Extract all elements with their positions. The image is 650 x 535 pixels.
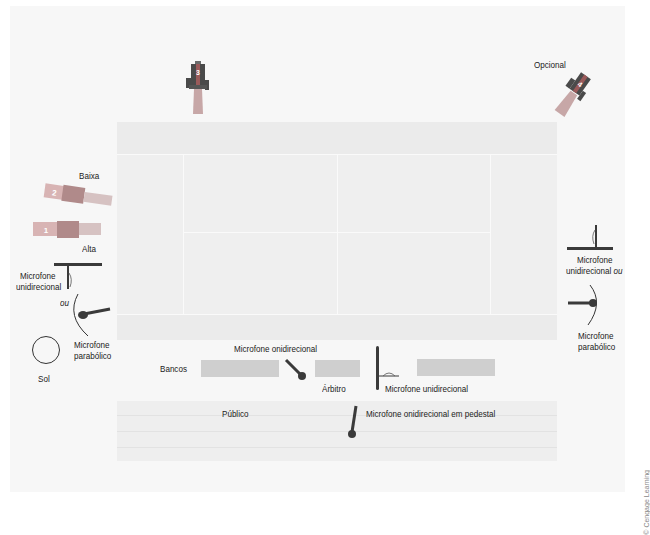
omni-mic-label: Microfone onidirecional <box>234 343 317 354</box>
stand-row <box>117 431 557 432</box>
bench-left <box>201 360 279 377</box>
court-line <box>490 154 491 314</box>
right-mic-uni-label-2: unidirecional ou <box>566 265 623 276</box>
court-top-zone <box>117 122 557 155</box>
right-parabolic-mic-icon <box>566 283 606 327</box>
right-mic-para-label-1: Microfone <box>578 330 613 341</box>
left-or-label: ou <box>60 297 69 308</box>
referee-table <box>315 360 360 377</box>
right-unidirectional-mic-icon <box>565 222 615 252</box>
court <box>117 122 557 340</box>
stand-mic-label: Microfone onidirecional em pedestal <box>366 408 495 419</box>
right-or-label: ou <box>614 265 623 276</box>
svg-text:3: 3 <box>196 69 200 76</box>
court-line <box>183 154 184 314</box>
sun-icon <box>32 336 60 364</box>
camera-2-label: Baixa <box>79 170 99 181</box>
court-bottom-zone <box>117 314 557 340</box>
svg-text:1: 1 <box>44 226 49 235</box>
copyright-credit: © Cengage Learning <box>643 470 650 535</box>
camera-1-label: Alta <box>82 243 96 254</box>
camera-3-icon: 3 <box>183 58 223 118</box>
camera-4-icon: 4 <box>553 68 593 124</box>
sun-label: Sol <box>38 373 50 384</box>
stand-omni-mic-icon <box>344 404 360 440</box>
bench-right <box>417 359 495 376</box>
camera-1-icon: 1 <box>31 218 103 242</box>
left-mic-para-label-2: parabólico <box>74 350 111 361</box>
camera-2-icon: 2 <box>42 182 114 212</box>
left-mic-para-label-1: Microfone <box>74 339 109 350</box>
right-mic-para-label-2: parabólico <box>578 341 615 352</box>
audience-label: Público <box>222 408 248 419</box>
referee-label: Árbitro <box>322 383 346 394</box>
sideline-uni-mic-label: Microfone unidirecional <box>385 383 468 394</box>
omni-mic-icon <box>283 357 309 383</box>
left-mic-uni-label-1: Microfone <box>20 270 55 281</box>
stand-row <box>117 447 557 448</box>
left-parabolic-mic-icon <box>70 292 112 338</box>
court-line <box>183 232 490 233</box>
court-center-line <box>337 154 338 314</box>
right-mic-uni-label-1: Microfone <box>577 254 612 265</box>
left-mic-uni-label-2: unidirecional <box>16 281 61 292</box>
benches-label: Bancos <box>160 363 187 374</box>
